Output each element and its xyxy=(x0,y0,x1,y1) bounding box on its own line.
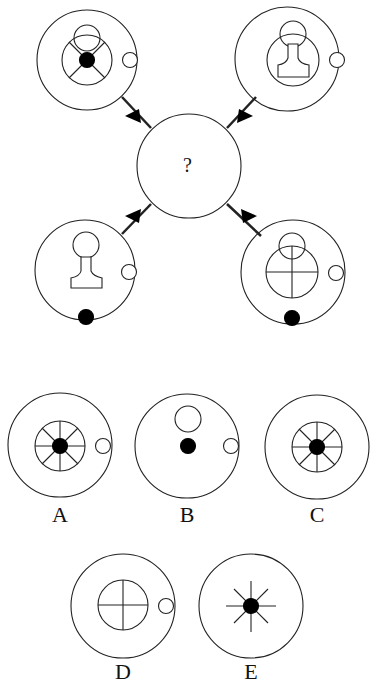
figure-top-right xyxy=(235,7,345,111)
figure-bottom-right xyxy=(241,220,345,326)
option-e-label[interactable]: E xyxy=(236,659,266,685)
figure-top-left xyxy=(37,10,138,110)
puzzle-diagram xyxy=(0,0,377,689)
figure-bottom-left xyxy=(35,220,137,325)
arrow-head-top-left xyxy=(125,109,141,123)
option-d-label[interactable]: D xyxy=(108,659,138,685)
option-a-figure[interactable] xyxy=(8,393,112,497)
question-mark: ? xyxy=(183,154,192,177)
option-b-figure[interactable] xyxy=(135,394,239,498)
option-b-label[interactable]: B xyxy=(172,502,202,528)
option-e-figure[interactable] xyxy=(199,554,303,658)
option-c-figure[interactable] xyxy=(265,395,369,499)
option-a-label[interactable]: A xyxy=(45,502,75,528)
option-d-figure[interactable] xyxy=(71,554,175,658)
option-c-label[interactable]: C xyxy=(302,502,332,528)
arrow-head-top-right xyxy=(237,109,253,123)
arrow-head-bottom-right xyxy=(241,209,257,223)
